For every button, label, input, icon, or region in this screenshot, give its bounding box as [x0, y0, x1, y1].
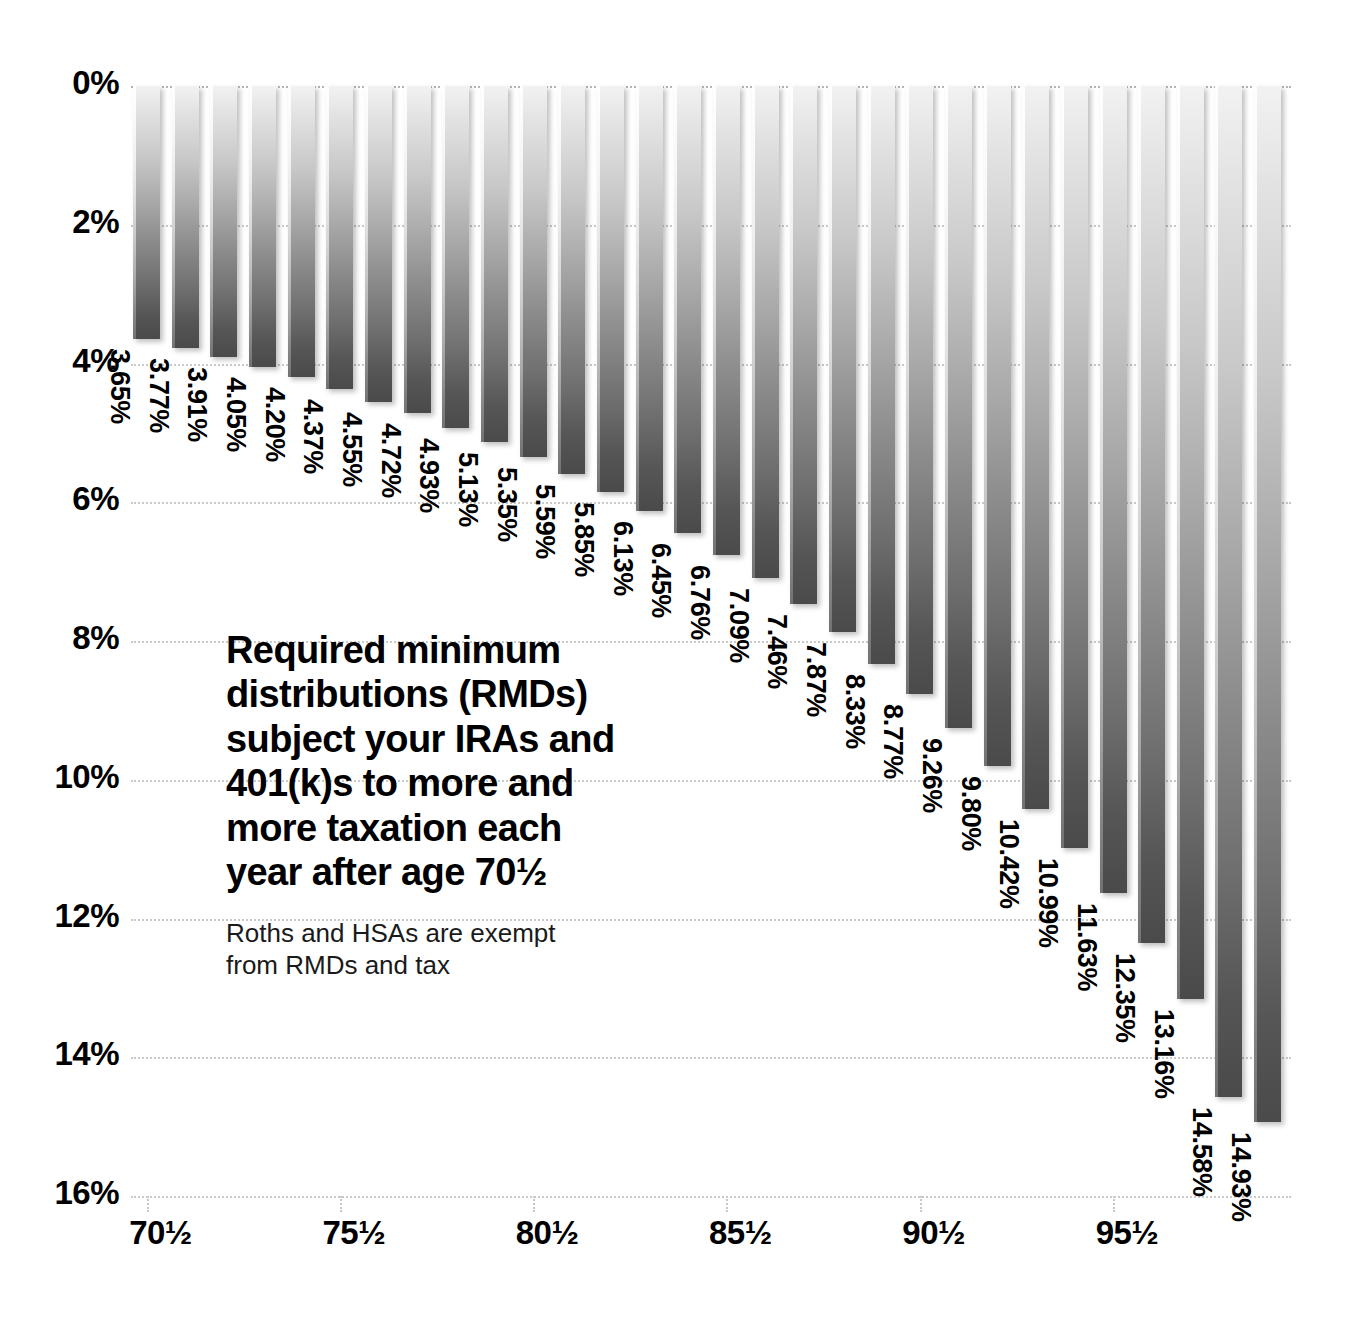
bar-value-label: 13.16%: [1148, 1009, 1179, 1099]
bar: [674, 86, 701, 533]
x-tick-label: 85½: [680, 1214, 800, 1252]
bar: [1138, 86, 1165, 943]
x-tick-mark: [533, 1196, 535, 1212]
bar: [481, 86, 508, 442]
bar: [906, 86, 933, 694]
bar-value-label: 3.65%: [104, 349, 135, 424]
bar: [288, 86, 315, 377]
bar: [133, 86, 160, 339]
bar-value-label: 8.33%: [839, 674, 870, 749]
y-tick-label: 4%: [9, 342, 119, 380]
y-tick-label: 0%: [9, 64, 119, 102]
bar-value-label: 7.87%: [800, 642, 831, 717]
bar: [210, 86, 237, 357]
title-line-5: more taxation each: [226, 807, 562, 849]
bar-value-label: 4.93%: [413, 438, 444, 513]
bar-value-label: 7.09%: [723, 588, 754, 663]
y-tick-label: 10%: [9, 758, 119, 796]
bar: [945, 86, 972, 728]
y-tick-label: 8%: [9, 619, 119, 657]
bar: [752, 86, 779, 578]
bar-value-label: 10.42%: [993, 819, 1024, 909]
bar: [442, 86, 469, 428]
bar: [1100, 86, 1127, 893]
x-tick-label: 80½: [487, 1214, 607, 1252]
bar-value-label: 9.26%: [916, 738, 947, 813]
bar-value-label: 5.85%: [568, 502, 599, 577]
y-tick-label: 12%: [9, 897, 119, 935]
bar-value-label: 7.46%: [761, 614, 792, 689]
bar: [868, 86, 895, 664]
x-tick-label: 70½: [101, 1214, 221, 1252]
bar: [404, 86, 431, 413]
bar-value-label: 10.99%: [1032, 858, 1063, 948]
title-block: Required minimum distributions (RMDs) su…: [226, 628, 646, 982]
title-line-1: Required minimum: [226, 629, 561, 671]
y-tick-label: 14%: [9, 1035, 119, 1073]
x-tick-mark: [920, 1196, 922, 1212]
bar-value-label: 6.76%: [684, 565, 715, 640]
y-tick-label: 16%: [9, 1174, 119, 1212]
bar-value-label: 3.77%: [143, 358, 174, 433]
bar-value-label: 5.13%: [452, 452, 483, 527]
title-line-6: year after age 70½: [226, 851, 547, 893]
page-title: Required minimum distributions (RMDs) su…: [226, 628, 646, 895]
bar: [1061, 86, 1088, 848]
bar-value-label: 11.63%: [1071, 903, 1102, 991]
x-tick-label: 90½: [874, 1214, 994, 1252]
bar-value-label: 14.93%: [1225, 1132, 1256, 1222]
x-tick-mark: [340, 1196, 342, 1212]
bar-value-label: 8.77%: [877, 704, 908, 779]
x-tick-mark: [726, 1196, 728, 1212]
x-tick-mark: [1113, 1196, 1115, 1212]
chart-subtitle: Roths and HSAs are exempt from RMDs and …: [226, 917, 646, 982]
x-tick-label: 95½: [1067, 1214, 1187, 1252]
title-line-2: distributions (RMDs): [226, 673, 588, 715]
bar-value-label: 4.72%: [375, 423, 406, 498]
bar: [597, 86, 624, 492]
y-tick-label: 6%: [9, 480, 119, 518]
bar: [365, 86, 392, 402]
bar-value-label: 6.13%: [607, 521, 638, 596]
rmd-bar-chart: 0%2%4%6%8%10%12%14%16% 3.65%3.77%3.91%4.…: [0, 0, 1361, 1332]
y-tick-label: 2%: [9, 203, 119, 241]
bar: [1022, 86, 1049, 809]
bar: [1177, 86, 1204, 999]
bar-value-label: 3.91%: [181, 367, 212, 442]
bar-value-label: 12.35%: [1109, 953, 1140, 1043]
bar-value-label: 4.37%: [297, 399, 328, 474]
bar: [558, 86, 585, 474]
bar-value-label: 5.35%: [491, 467, 522, 542]
bar: [636, 86, 663, 511]
bar: [1215, 86, 1242, 1097]
bar-value-label: 4.20%: [259, 387, 290, 462]
bar: [326, 86, 353, 389]
subtitle-line-1: Roths and HSAs are exempt: [226, 917, 646, 950]
bar: [790, 86, 817, 604]
bar-value-label: 6.45%: [645, 543, 676, 618]
title-line-4: 401(k)s to more and: [226, 762, 574, 804]
bar-value-label: 9.80%: [955, 776, 986, 851]
bar: [249, 86, 276, 367]
title-line-3: subject your IRAs and: [226, 718, 615, 760]
bar-value-label: 5.59%: [529, 484, 560, 559]
bar-value-label: 14.58%: [1186, 1107, 1217, 1197]
bar: [520, 86, 547, 457]
bar: [829, 86, 856, 632]
bar: [1254, 86, 1281, 1122]
bar: [172, 86, 199, 348]
x-tick-label: 75½: [294, 1214, 414, 1252]
bar-value-label: 4.05%: [220, 377, 251, 452]
x-tick-mark: [147, 1196, 149, 1212]
subtitle-line-2: from RMDs and tax: [226, 949, 646, 982]
bar-value-label: 4.55%: [336, 412, 367, 487]
bar: [713, 86, 740, 555]
bar: [984, 86, 1011, 766]
